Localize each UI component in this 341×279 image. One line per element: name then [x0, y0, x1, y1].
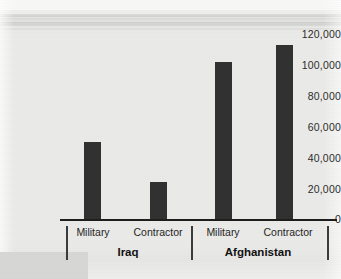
bar-iraq-military [84, 142, 101, 219]
bar-afghanistan-contractor [276, 45, 293, 219]
bar-afghanistan-military [215, 62, 232, 219]
x-axis-line [60, 219, 337, 221]
group-separator-tick [191, 226, 193, 260]
y-axis-tick-label: 120,000 [279, 28, 341, 40]
x-axis-category-label-afghanistan-military: Military [206, 226, 239, 238]
x-axis-group-label-afghanistan: Afghanistan [225, 246, 291, 258]
bar-iraq-contractor [150, 182, 167, 219]
x-axis-category-label-iraq-contractor: Contractor [133, 226, 182, 238]
group-separator-tick [327, 226, 329, 260]
group-separator-tick [66, 226, 68, 260]
plot-area: 120,000 100,000 80,000 60,000 40,000 20,… [0, 0, 341, 279]
x-axis-group-label-iraq: Iraq [117, 246, 138, 258]
x-axis-category-label-afghanistan-contractor: Contractor [263, 226, 312, 238]
chart-figure: 120,000 100,000 80,000 60,000 40,000 20,… [0, 0, 341, 279]
x-axis-category-label-iraq-military: Military [76, 226, 109, 238]
